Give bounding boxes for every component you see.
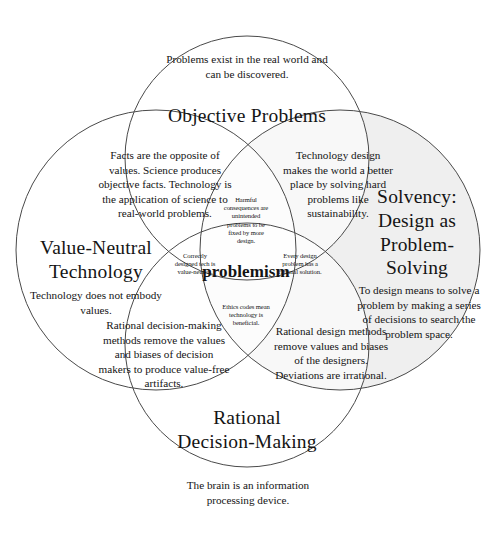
- value-neutral-technology-title: Value-Neutral Technology: [17, 236, 175, 284]
- petal-lower-text: Ethics codes mean technology is benefici…: [220, 303, 272, 328]
- value-neutral-technology-blurb: Technology does not embody values.: [24, 288, 168, 317]
- rational-decision-making-blurb: The brain is an information processing d…: [179, 478, 317, 507]
- overlap-top-left-text: Facts are the opposite of values. Scienc…: [95, 148, 235, 221]
- rational-decision-making-title: Rational Decision-Making: [177, 406, 317, 454]
- overlap-bottom-right-text: Rational design methods remove values an…: [272, 324, 390, 382]
- overlap-top-right-text: Technology design makes the world a bett…: [283, 148, 393, 221]
- venn-diagram: Problems exist in the real world and can…: [0, 0, 493, 538]
- center-term-problemism: problemism: [187, 262, 305, 282]
- objective-problems-title: Objective Problems: [147, 104, 347, 128]
- objective-problems-blurb: Problems exist in the real world and can…: [166, 52, 328, 81]
- overlap-bottom-left-text: Rational decision-making methods remove …: [98, 318, 230, 391]
- petal-upper-text: Harmful consequences are unintended prob…: [220, 196, 272, 245]
